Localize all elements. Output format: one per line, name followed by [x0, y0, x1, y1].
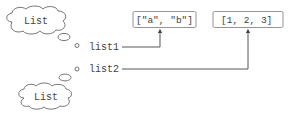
thought-bubble-icon	[59, 74, 71, 81]
object-box-2: [1, 2, 3]	[213, 12, 283, 28]
type-cloud-1: List	[7, 6, 66, 34]
object-1-value: ["a", "b"]	[136, 15, 193, 26]
reference-arrow-list2	[122, 31, 248, 69]
thought-dot-icon	[75, 44, 79, 48]
object-2-value: [1, 2, 3]	[221, 15, 272, 26]
thought-dot-icon	[75, 67, 79, 71]
thought-bubble-icon	[58, 33, 70, 40]
reference-arrow-list1	[122, 31, 160, 47]
type-cloud-2: List	[19, 83, 72, 109]
variable-list2: list2	[89, 64, 119, 75]
cloud-1-label: List	[24, 16, 48, 27]
reference-diagram: List List list1 list2 ["a", "b"] [1, 2, …	[0, 0, 302, 113]
variable-list1: list1	[89, 42, 119, 53]
cloud-2-label: List	[34, 92, 58, 103]
object-box-1: ["a", "b"]	[133, 12, 196, 28]
